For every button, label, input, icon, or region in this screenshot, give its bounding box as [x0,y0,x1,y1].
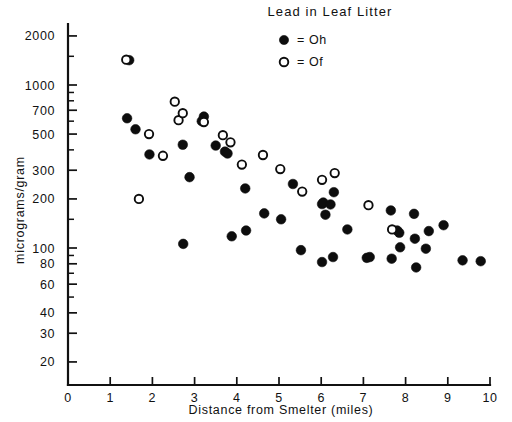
y-tick-label: 300 [32,164,55,178]
series-of [122,55,396,233]
data-point-oh [240,184,250,194]
data-point-oh [409,209,419,219]
data-point-oh [411,263,421,273]
data-point-of [159,152,167,160]
data-point-of [145,130,153,138]
scatter-plot: 200010007005003002001008060403020 012345… [0,0,512,422]
y-tick-label: 1000 [25,79,55,93]
data-point-oh [326,200,336,210]
y-tick-label: 60 [40,278,55,292]
data-point-oh [329,187,339,197]
y-tick-label: 200 [32,192,55,206]
legend: = Oh = Of [279,33,326,69]
data-point-of [238,160,246,168]
data-point-oh [223,149,233,159]
y-tick-label: 2000 [25,29,55,43]
legend-marker-of [280,58,289,67]
data-point-oh [145,150,155,160]
data-point-oh [410,234,420,244]
y-tick-label: 700 [32,104,55,118]
x-tick-label: 9 [444,391,452,405]
y-tick-label: 40 [40,306,55,320]
x-tick-label: 2 [149,391,157,405]
x-tick-label: 8 [402,391,410,405]
chart-figure: 200010007005003002001008060403020 012345… [0,0,512,422]
legend-label-of: = Of [297,55,323,69]
x-axis-title: Distance from Smelter (miles) [189,403,374,417]
y-tick-label: 30 [40,327,55,341]
x-tick-label: 0 [64,391,72,405]
y-tick-labels: 200010007005003002001008060403020 [25,29,55,369]
data-point-oh [321,210,331,220]
data-point-oh [458,256,468,266]
axes [68,24,490,385]
series-oh [122,55,485,272]
data-point-oh [241,226,251,236]
data-point-oh [227,231,237,241]
data-point-of [200,118,208,126]
x-tick-label: 10 [482,391,497,405]
data-point-oh [386,206,396,216]
data-point-of [219,131,227,139]
data-point-oh [476,256,486,266]
data-point-oh [365,252,375,262]
y-tick-label: 80 [40,257,55,271]
tick-marks [68,36,490,385]
data-point-oh [424,226,434,236]
data-point-oh [178,140,188,150]
data-point-of [388,225,396,233]
y-tick-label: 20 [40,355,55,369]
data-point-oh [317,257,327,267]
chart-title: Lead in Leaf Litter [268,4,393,19]
data-point-oh [178,239,188,249]
data-point-of [259,151,267,159]
data-point-of [276,165,284,173]
y-tick-label: 500 [32,128,55,142]
y-axis-title: micrograms/gram [13,156,27,264]
data-point-oh [343,225,353,235]
x-tick-label: 1 [106,391,114,405]
data-point-oh [276,215,286,225]
data-point-oh [259,209,269,219]
data-point-of [364,201,372,209]
data-point-oh [395,243,405,253]
data-point-of [318,176,326,184]
data-point-of [298,187,306,195]
data-point-oh [211,141,221,151]
legend-marker-oh [279,35,288,44]
data-point-oh [122,113,132,123]
data-point-of [179,109,187,117]
data-point-of [226,138,234,146]
data-point-oh [131,124,141,134]
data-point-of [331,169,339,177]
data-point-oh [387,254,397,264]
data-point-oh [288,179,298,189]
data-point-of [171,97,179,105]
data-point-oh [296,245,306,255]
legend-label-oh: = Oh [297,33,327,47]
data-point-oh [328,252,338,262]
data-point-of [122,55,130,63]
data-point-oh [185,172,195,182]
data-points [122,55,485,272]
y-tick-label: 100 [32,242,55,256]
data-point-oh [421,244,431,254]
data-point-oh [439,220,449,230]
data-point-of [135,195,143,203]
